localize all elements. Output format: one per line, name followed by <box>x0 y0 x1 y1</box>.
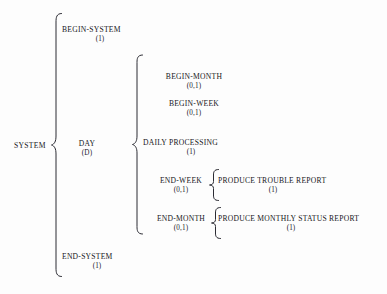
node-begin-week-cardinality: (0,1) <box>145 110 243 117</box>
node-end-month-cardinality: (0,1) <box>152 225 210 232</box>
node-begin-month: BEGIN-MONTH (0,1) <box>145 73 243 90</box>
node-end-week-cardinality: (0,1) <box>155 187 207 194</box>
node-begin-system-label: BEGIN-SYSTEM <box>62 26 142 34</box>
node-produce-trouble-report-label: PRODUCE TROUBLE REPORT <box>218 177 332 185</box>
node-produce-monthly-status-report-label: PRODUCE MONTHLY STATUS REPORT <box>218 215 368 223</box>
node-begin-system-cardinality: (1) <box>62 36 138 43</box>
node-produce-monthly-status-report: PRODUCE MONTHLY STATUS REPORT (1) <box>218 215 368 232</box>
node-end-week: END-WEEK (0,1) <box>155 177 207 194</box>
node-produce-monthly-status-report-cardinality: (1) <box>218 225 364 232</box>
node-begin-system: BEGIN-SYSTEM (1) <box>62 26 142 43</box>
node-produce-trouble-report-cardinality: (1) <box>218 187 328 194</box>
node-daily-processing-label: DAILY PROCESSING <box>143 139 259 147</box>
node-produce-trouble-report: PRODUCE TROUBLE REPORT (1) <box>218 177 332 194</box>
structure-diagram: SYSTEM BEGIN-SYSTEM (1) DAY (D) END-SYST… <box>0 0 387 294</box>
node-begin-week-label: BEGIN-WEEK <box>145 100 243 108</box>
brace-system <box>50 10 64 280</box>
node-day-cardinality: (D) <box>64 150 110 157</box>
node-daily-processing: DAILY PROCESSING (1) <box>143 139 259 156</box>
node-end-system-label: END-SYSTEM <box>62 253 142 261</box>
node-begin-month-cardinality: (0,1) <box>145 83 243 90</box>
node-end-month: END-MONTH (0,1) <box>152 215 210 232</box>
node-daily-processing-cardinality: (1) <box>143 149 239 156</box>
node-end-month-label: END-MONTH <box>152 215 210 223</box>
node-end-system: END-SYSTEM (1) <box>62 253 142 270</box>
node-begin-month-label: BEGIN-MONTH <box>145 73 243 81</box>
node-end-week-label: END-WEEK <box>155 177 207 185</box>
node-end-system-cardinality: (1) <box>62 263 132 270</box>
node-begin-week: BEGIN-WEEK (0,1) <box>145 100 243 117</box>
node-day-label: DAY <box>64 140 110 148</box>
node-day: DAY (D) <box>64 140 110 157</box>
root-label-system: SYSTEM <box>14 141 46 150</box>
